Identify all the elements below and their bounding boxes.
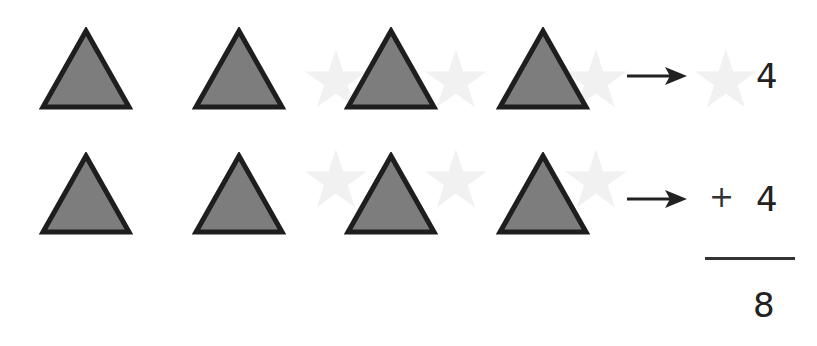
watermark-star-icon: ★ — [690, 40, 762, 120]
triangle-icon — [192, 152, 286, 236]
sum-result: 8 — [753, 288, 775, 322]
sum-line — [705, 257, 795, 260]
triangle-icon — [496, 27, 590, 111]
triangle-icon — [496, 152, 590, 236]
addend-1: 4 — [756, 59, 778, 93]
triangle-icon — [344, 152, 438, 236]
arrow-right-icon — [627, 66, 687, 86]
triangle-icon — [344, 27, 438, 111]
triangle-icon — [192, 27, 286, 111]
triangle-icon — [39, 27, 133, 111]
addend-2: 4 — [756, 182, 778, 216]
arrow-right-icon — [627, 189, 687, 209]
triangle-icon — [39, 152, 133, 236]
plus-operator: + — [709, 182, 734, 212]
